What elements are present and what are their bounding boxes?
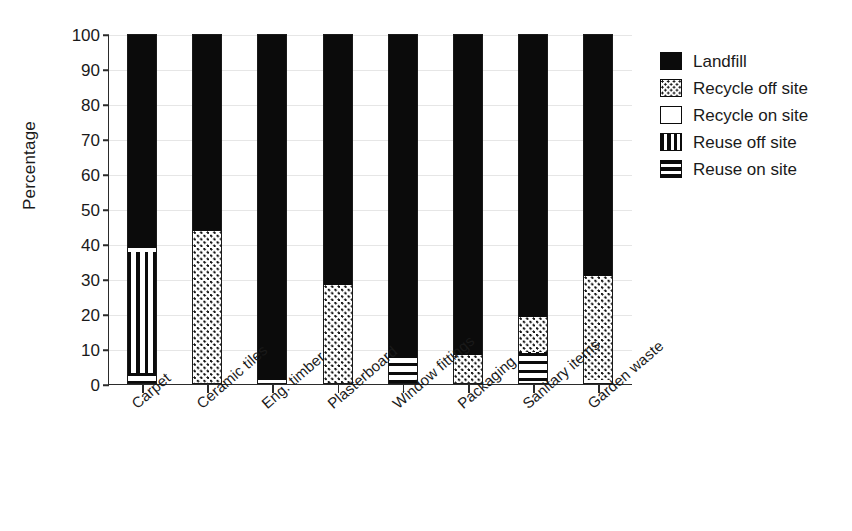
gridline xyxy=(109,350,632,351)
bar-segment-landfill xyxy=(519,34,547,317)
bar-segment-landfill xyxy=(128,34,156,248)
bar-segment-landfill xyxy=(454,34,482,355)
y-tick-label: 100 xyxy=(52,27,109,44)
gridline xyxy=(109,140,632,141)
y-tick-label: 50 xyxy=(52,202,109,219)
bar-segment-recycle-off-site xyxy=(193,231,221,383)
gridline xyxy=(109,210,632,211)
y-axis-title: Percentage xyxy=(20,121,40,210)
bar-segment-landfill xyxy=(193,34,221,231)
legend-swatch-icon xyxy=(660,79,682,97)
y-tick-label: 40 xyxy=(52,237,109,254)
legend-label: Landfill xyxy=(693,53,747,70)
bar-eng-timber xyxy=(257,34,287,384)
legend-swatch-icon xyxy=(660,52,682,70)
gridline xyxy=(109,35,632,36)
chart-legend: LandfillRecycle off siteRecycle on siteR… xyxy=(660,52,808,178)
plot-area: 0102030405060708090100 xyxy=(108,35,632,385)
gridline xyxy=(109,315,632,316)
bar-carpet xyxy=(127,34,157,384)
bar-segment-reuse-off-site xyxy=(128,252,156,373)
legend-item-reuse-off-site[interactable]: Reuse off site xyxy=(660,133,808,151)
y-tick-label: 20 xyxy=(52,307,109,324)
bar-segment-landfill xyxy=(258,34,286,380)
y-tick-label: 30 xyxy=(52,272,109,289)
y-tick-label: 80 xyxy=(52,97,109,114)
legend-label: Reuse on site xyxy=(693,161,797,178)
bar-window-fittings xyxy=(388,34,418,384)
legend-label: Recycle off site xyxy=(693,80,808,97)
gridline xyxy=(109,280,632,281)
bar-segment-recycle-off-site xyxy=(519,317,547,352)
legend-swatch-icon xyxy=(660,133,682,151)
gridline xyxy=(109,245,632,246)
legend-label: Reuse off site xyxy=(693,134,797,151)
bar-segment-landfill xyxy=(324,34,352,285)
y-tick-label: 90 xyxy=(52,62,109,79)
legend-item-recycle-on-site[interactable]: Recycle on site xyxy=(660,106,808,124)
bar-packaging xyxy=(453,34,483,384)
legend-item-recycle-off-site[interactable]: Recycle off site xyxy=(660,79,808,97)
bar-segment-landfill xyxy=(389,34,417,355)
legend-item-landfill[interactable]: Landfill xyxy=(660,52,808,70)
gridline xyxy=(109,105,632,106)
bar-segment-recycle-off-site xyxy=(584,276,612,379)
bar-ceramic-tiles xyxy=(192,34,222,384)
gridline xyxy=(109,175,632,176)
bar-garden-waste xyxy=(583,34,613,384)
bar-segment-reuse-off-site xyxy=(519,352,547,354)
stacked-bar-chart: Percentage 0102030405060708090100 Carpet… xyxy=(0,0,852,531)
y-tick-label: 0 xyxy=(52,377,109,394)
gridline xyxy=(109,70,632,71)
bar-plasterboard xyxy=(323,34,353,384)
legend-swatch-icon xyxy=(660,160,682,178)
legend-swatch-icon xyxy=(660,106,682,124)
bar-segment-landfill xyxy=(584,34,612,276)
y-tick-label: 70 xyxy=(52,132,109,149)
bar-segment-recycle-on-site xyxy=(128,248,156,252)
y-tick-label: 60 xyxy=(52,167,109,184)
legend-label: Recycle on site xyxy=(693,107,808,124)
y-tick-label: 10 xyxy=(52,342,109,359)
bar-sanitary-items xyxy=(518,34,548,384)
bar-segment-recycle-off-site xyxy=(324,285,352,383)
legend-item-reuse-on-site[interactable]: Reuse on site xyxy=(660,160,808,178)
